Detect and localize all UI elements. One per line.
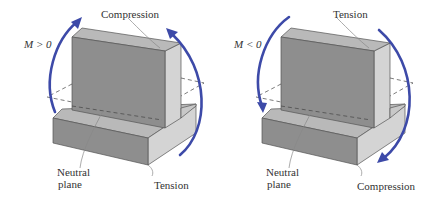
neutral-plane-label-line1: Neutral bbox=[57, 166, 90, 178]
neutral-plane-label-line1-right: Neutral bbox=[266, 166, 299, 178]
web-side-face bbox=[374, 43, 390, 128]
moment-label-negative: M < 0 bbox=[234, 38, 262, 50]
moment-label-positive: M > 0 bbox=[24, 38, 52, 50]
figure-positive-moment: M > 0 Compression Neutral plane Tension … bbox=[0, 0, 437, 204]
bottom-label-tension: Tension bbox=[154, 179, 189, 191]
neutral-plane-label-line2: plane bbox=[58, 178, 82, 190]
neutral-plane-label-line2-right: plane bbox=[267, 178, 291, 190]
tension-leader-line bbox=[148, 165, 153, 176]
compression-leader-line bbox=[357, 165, 362, 176]
top-label-tension: Tension bbox=[333, 8, 368, 20]
bottom-label-compression: Compression bbox=[357, 180, 415, 192]
top-label-compression: Compression bbox=[101, 8, 159, 20]
web-side-face bbox=[165, 43, 181, 128]
arrowhead-left-down-icon bbox=[257, 102, 267, 113]
